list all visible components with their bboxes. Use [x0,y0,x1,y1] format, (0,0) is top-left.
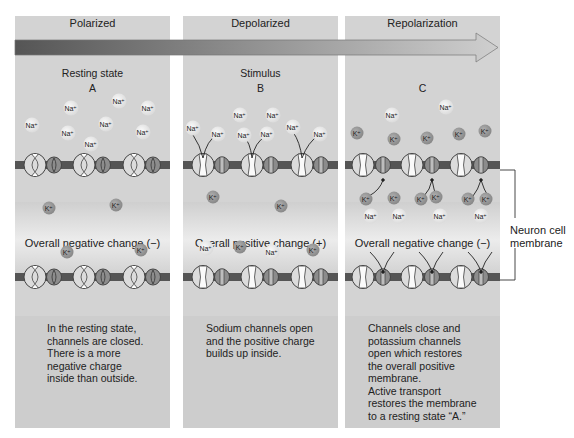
svg-text:K⁺: K⁺ [464,196,473,203]
sodium-ion: Na⁺ [186,121,201,136]
svg-text:K⁺: K⁺ [63,249,72,256]
svg-text:Na⁺: Na⁺ [100,121,113,128]
sodium-ion: Na⁺ [364,209,379,224]
potassium-ion: K⁺ [415,193,428,206]
svg-text:K⁺: K⁺ [137,247,146,254]
sodium-ion: Na⁺ [25,118,40,133]
svg-text:Na⁺: Na⁺ [266,249,279,256]
svg-text:Na⁺: Na⁺ [62,130,75,137]
sodium-ion: Na⁺ [237,128,252,143]
potassium-ion: K⁺ [480,193,493,206]
sodium-ion: Na⁺ [286,120,301,135]
svg-text:Na⁺: Na⁺ [267,112,280,119]
sodium-ion: Na⁺ [439,100,454,115]
svg-text:Na⁺: Na⁺ [393,213,406,220]
potassium-ion: K⁺ [351,127,364,140]
svg-text:Na⁺: Na⁺ [26,122,39,129]
ion-channels-a [24,154,161,289]
svg-text:K⁺: K⁺ [45,205,54,212]
svg-text:Na⁺: Na⁺ [261,131,274,138]
potassium-ion: K⁺ [453,128,466,141]
sodium-ion: Na⁺ [99,117,114,132]
svg-text:Na⁺: Na⁺ [287,124,300,131]
svg-text:K⁺: K⁺ [432,194,441,201]
potassium-ion: K⁺ [234,241,247,254]
svg-text:K⁺: K⁺ [390,195,399,202]
sodium-ion: Na⁺ [433,209,448,224]
potassium-ion: K⁺ [430,191,443,204]
svg-text:K⁺: K⁺ [423,135,432,142]
potassium-ion: K⁺ [110,199,123,212]
svg-text:K⁺: K⁺ [236,244,245,251]
svg-text:Na⁺: Na⁺ [440,104,453,111]
sodium-ion: Na⁺ [112,94,127,109]
sodium-ion: Na⁺ [64,101,79,116]
svg-text:K⁺: K⁺ [390,136,399,143]
svg-text:Na⁺: Na⁺ [65,105,78,112]
svg-text:Na⁺: Na⁺ [238,132,251,139]
svg-text:Na⁺: Na⁺ [212,131,225,138]
svg-text:Na⁺: Na⁺ [434,213,447,220]
potassium-ion: K⁺ [43,202,56,215]
progression-arrow [15,33,498,62]
svg-text:Na⁺: Na⁺ [475,213,488,220]
sodium-ion: Na⁺ [265,245,280,260]
membrane-callout-label: Neuron cell membrane [510,224,566,250]
sodium-ion: Na⁺ [385,108,400,123]
svg-text:Na⁺: Na⁺ [314,131,327,138]
potassium-ion: K⁺ [61,246,74,259]
svg-text:Na⁺: Na⁺ [137,129,150,136]
sodium-ion: Na⁺ [199,241,214,256]
sodium-ion: Na⁺ [141,101,156,116]
potassium-ion: K⁺ [388,192,401,205]
sodium-ion: Na⁺ [233,108,248,123]
sodium-ion: Na⁺ [392,209,407,224]
sodium-ion: Na⁺ [61,126,76,141]
svg-text:K⁺: K⁺ [362,196,371,203]
potassium-ion: K⁺ [462,193,475,206]
potassium-ion: K⁺ [421,132,434,145]
potassium-ion: K⁺ [207,191,220,204]
potassium-ion: K⁺ [360,193,373,206]
sodium-ion: Na⁺ [84,137,99,152]
svg-text:K⁺: K⁺ [277,203,286,210]
svg-text:Na⁺: Na⁺ [200,245,213,252]
svg-text:Na⁺: Na⁺ [113,98,126,105]
ion-channels-b [192,154,329,289]
potassium-ion: K⁺ [479,125,492,138]
svg-text:Na⁺: Na⁺ [142,105,155,112]
ions: Na⁺ Na⁺ Na⁺ Na⁺ Na⁺ Na⁺ Na⁺ Na⁺ K⁺ K⁺ K⁺… [25,94,493,260]
potassium-ion: K⁺ [275,200,288,213]
svg-text:Na⁺: Na⁺ [365,213,378,220]
sodium-ion: Na⁺ [474,209,489,224]
svg-text:K⁺: K⁺ [482,196,491,203]
potassium-ion: K⁺ [388,133,401,146]
potassium-ion: K⁺ [307,244,320,257]
svg-text:K⁺: K⁺ [209,194,218,201]
svg-text:K⁺: K⁺ [112,202,121,209]
diagram-artwork: Na⁺ Na⁺ Na⁺ Na⁺ Na⁺ Na⁺ Na⁺ Na⁺ K⁺ K⁺ K⁺… [0,0,574,438]
svg-text:Na⁺: Na⁺ [386,112,399,119]
svg-text:Na⁺: Na⁺ [85,141,98,148]
sodium-ion: Na⁺ [266,108,281,123]
potassium-efflux-arrows [369,179,492,274]
svg-text:K⁺: K⁺ [309,247,318,254]
sodium-ion: Na⁺ [136,125,151,140]
svg-text:K⁺: K⁺ [455,131,464,138]
svg-text:K⁺: K⁺ [353,130,362,137]
potassium-ion: K⁺ [135,244,148,257]
svg-text:K⁺: K⁺ [417,196,426,203]
svg-text:Na⁺: Na⁺ [187,125,200,132]
sodium-ion: Na⁺ [260,127,275,142]
svg-text:Na⁺: Na⁺ [234,112,247,119]
svg-text:K⁺: K⁺ [481,128,490,135]
sodium-ion: Na⁺ [313,127,328,142]
sodium-ion: Na⁺ [211,127,226,142]
